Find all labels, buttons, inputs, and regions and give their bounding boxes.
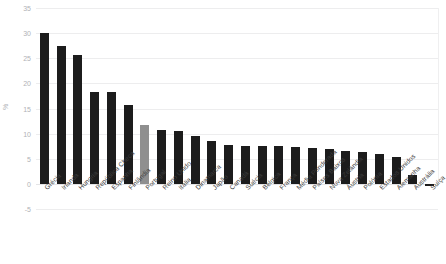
y-tick-5: 5	[27, 155, 31, 162]
bar-14[interactable]	[258, 8, 267, 184]
bar-2[interactable]	[57, 8, 66, 184]
bar-8[interactable]	[157, 8, 166, 184]
y-tick-10: 10	[23, 130, 31, 137]
bar-21[interactable]	[375, 8, 384, 184]
bar-1[interactable]	[40, 8, 49, 184]
bar-24[interactable]	[425, 8, 434, 184]
bar-13[interactable]	[241, 8, 250, 184]
bar-17[interactable]	[308, 8, 317, 184]
bar-series	[36, 8, 438, 184]
bar-10[interactable]	[191, 8, 200, 184]
bar-fill	[57, 46, 66, 184]
bar-11[interactable]	[207, 8, 216, 184]
y-tick-30: 30	[23, 30, 31, 37]
bar-9[interactable]	[174, 8, 183, 184]
plot-right-rule	[438, 8, 439, 184]
y-tick-15: 15	[23, 105, 31, 112]
bar-15[interactable]	[274, 8, 283, 184]
chart-title	[0, 0, 442, 2]
bar-fill	[73, 55, 82, 184]
bar-22[interactable]	[392, 8, 401, 184]
y-tick-20: 20	[23, 80, 31, 87]
bar-12[interactable]	[224, 8, 233, 184]
bar-fill	[191, 136, 200, 184]
y-axis-label: %	[2, 104, 9, 110]
x-axis-labels: GréciaIrlandaHungriaRepública ChecaEspan…	[36, 186, 438, 264]
bar-4[interactable]	[90, 8, 99, 184]
bar-fill	[40, 33, 49, 184]
bar-5[interactable]	[107, 8, 116, 184]
bar-7[interactable]	[140, 8, 149, 184]
bar-3[interactable]	[73, 8, 82, 184]
y-tick-0: 0	[27, 181, 31, 188]
y-tick-35: 35	[23, 5, 31, 12]
y-tick--5: -5	[25, 206, 31, 213]
bar-16[interactable]	[291, 8, 300, 184]
y-tick-25: 25	[23, 55, 31, 62]
